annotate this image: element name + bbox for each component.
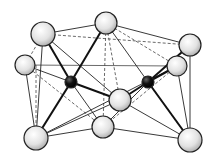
atom-metal-left [65, 76, 77, 88]
atom-left [15, 55, 35, 75]
atom-top-right [179, 34, 201, 56]
atom-top-center [95, 12, 117, 34]
atom-bottom-center [92, 116, 114, 138]
atom-metal-right [142, 76, 154, 88]
atom-bottom-right [178, 128, 202, 152]
atom-bottom-left [24, 126, 48, 150]
atom-center [109, 89, 131, 111]
atom-top-left [31, 22, 55, 46]
atom-right [167, 56, 187, 76]
molecular-cluster-diagram [0, 0, 212, 161]
